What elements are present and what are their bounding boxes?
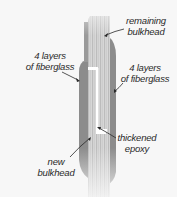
label-new-bulkhead: new bulkhead xyxy=(36,156,76,178)
label-fiberglass-left: 4 layers of fiberglass xyxy=(24,50,76,72)
label-thickened-epoxy: thickened epoxy xyxy=(116,132,158,154)
label-fiberglass-right: 4 layers of fiberglass xyxy=(118,62,172,84)
label-remaining-bulkhead: remaining bulkhead xyxy=(124,15,168,37)
